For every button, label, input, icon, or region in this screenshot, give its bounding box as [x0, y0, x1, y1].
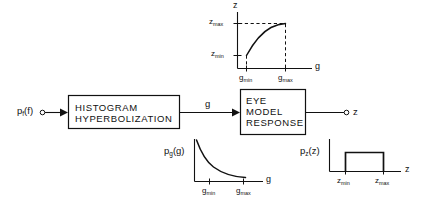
transfer-ytick-zmax-sub: max [213, 21, 223, 27]
pz-xtick-zmax-sub: max [379, 180, 389, 186]
output-signal-label: z [353, 107, 358, 117]
pz-y-axis-label: pz(z) [300, 146, 320, 156]
pz-xtick-label-zmin: zmin [337, 177, 350, 185]
pg-y-axis-label: pg(g) [164, 146, 185, 156]
pg-ylabel-arg: (g) [173, 145, 185, 156]
transfer-ytick-label-zmin: zmin [211, 50, 224, 58]
pg-xtick-gmin-sub: min [206, 190, 215, 196]
diagram-vector-layer [0, 0, 433, 206]
transfer-curve-path [247, 23, 286, 55]
intermediate-signal-label: g [205, 99, 210, 109]
chart-pg-density [195, 139, 264, 185]
transfer-xtick-label-gmax: gmax [278, 74, 293, 82]
transfer-xtick-gmax-sub: max [282, 77, 292, 83]
transfer-xtick-label-gmin: gmin [239, 74, 252, 82]
block-eye-line3: RESPONSE [246, 117, 304, 128]
chart-pz-density [330, 139, 402, 175]
pg-ylabel-sub: g [169, 150, 173, 157]
pg-curve-path [197, 140, 246, 178]
transfer-ytick-zmin-sub: min [215, 53, 224, 59]
block-eye-line2: MODEL [246, 106, 283, 117]
block-eye-line1: EYE [246, 95, 267, 106]
pz-xtick-zmin-sub: min [341, 180, 350, 186]
transfer-ytick-label-zmax: zmax [209, 18, 223, 26]
pg-x-axis-label: g [266, 175, 271, 184]
input-signal-arg: (f) [24, 105, 33, 116]
input-terminal-circle [40, 110, 45, 115]
pg-xtick-label-gmin: gmin [202, 187, 215, 195]
pz-xtick-label-zmax: zmax [375, 177, 389, 185]
transfer-x-axis-label: g [315, 62, 320, 71]
pz-ylabel-arg: (z) [309, 145, 320, 156]
pg-xtick-gmax-sub: max [240, 190, 250, 196]
diagram-canvas: z g zmax zmin gmin gmax pf(f) HISTOGRAM … [0, 0, 433, 206]
block-histogram-line1: HISTOGRAM [75, 102, 138, 113]
input-arrowhead [60, 109, 68, 117]
input-signal-subscript: f [22, 110, 24, 117]
input-signal-label: pf(f) [17, 106, 33, 116]
block-histogram-line2: HYPERBOLIZATION [75, 113, 173, 124]
intermediate-arrowhead [232, 109, 240, 117]
pz-uniform-rect-path [346, 153, 384, 172]
chart-transfer-curve [234, 12, 313, 72]
pg-xtick-label-gmax: gmax [236, 187, 251, 195]
output-terminal-circle [344, 110, 349, 115]
transfer-y-axis-label: z [233, 1, 238, 10]
pz-ylabel-sub: z [305, 150, 308, 157]
transfer-xtick-gmin-sub: min [243, 77, 252, 83]
pz-x-axis-label: z [405, 165, 410, 174]
